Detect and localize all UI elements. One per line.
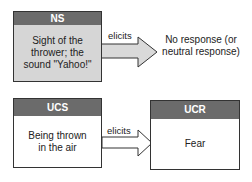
ns-header: NS xyxy=(14,12,101,25)
ucr-header: UCR xyxy=(151,101,239,119)
ucs-text: Being thrown in the air xyxy=(14,116,101,167)
elicits-arrow-top xyxy=(101,37,157,67)
ucs-box: UCS Being thrown in the air xyxy=(13,98,102,168)
ns-text: Sight of the thrower; the sound "Yahoo!" xyxy=(14,25,101,81)
ucs-header: UCS xyxy=(14,99,101,116)
ns-box: NS Sight of the thrower; the sound "Yaho… xyxy=(13,11,102,82)
ucr-text: Fear xyxy=(151,119,239,169)
no-response-text: No response (or neutral response) xyxy=(160,34,242,58)
elicits-label-bottom: elicits xyxy=(107,125,131,136)
elicits-label-top: elicits xyxy=(108,30,132,41)
ucr-box: UCR Fear xyxy=(150,100,240,170)
